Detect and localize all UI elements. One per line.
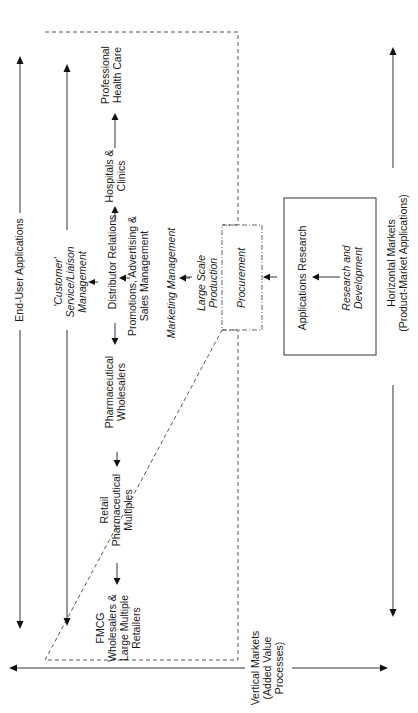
arrow-down-icon — [112, 338, 119, 345]
arrow-left-icon — [179, 275, 186, 282]
customer-service-axis: 'Customer' Service/Liaison Management — [52, 64, 98, 626]
vertical-markets-line-3: Processes) — [273, 642, 285, 695]
rnd-line-1: Research and — [340, 244, 352, 311]
retail-line-2: Pharmaceutical — [110, 474, 122, 546]
horizontal-markets-line-1: Horizontal Markets — [385, 219, 397, 307]
arrow-down-icon — [17, 621, 24, 629]
value-chain-diagram: End-User Applications 'Customer' Service… — [0, 0, 418, 713]
fmcg-line-3: Large Multiple — [118, 595, 130, 661]
customer-service-line-1: 'Customer' — [52, 256, 64, 307]
arrow-left-icon — [9, 665, 17, 672]
customer-service-line-3: Management — [76, 250, 88, 312]
rnd-line-2: Development — [352, 246, 364, 309]
arrow-down-icon — [114, 578, 121, 585]
arrow-down-icon — [114, 460, 121, 467]
procurement-label: Procurement — [235, 247, 247, 308]
retail-line-1: Retail — [98, 497, 110, 524]
horizontal-markets-line-2: (Product-Market Applications) — [397, 194, 409, 332]
arrow-up-icon — [17, 56, 24, 64]
arrow-left-icon — [88, 279, 95, 285]
fmcg-line-1: FMCG — [94, 613, 106, 644]
production-line-1: Large Scale — [195, 255, 207, 311]
vertical-markets-axis: Vertical Markets (Added Value Processes) — [9, 631, 388, 706]
organisation-boundary — [45, 32, 238, 660]
arrow-left-icon — [119, 275, 126, 282]
horizontal-markets-axis: Horizontal Markets (Product-Market Appli… — [385, 47, 409, 617]
vertical-markets-line-2: (Added Value — [261, 636, 273, 699]
applications-research-label: Applications Research — [296, 226, 308, 331]
end-user-applications-label: End-User Applications — [13, 218, 25, 321]
arrow-up-icon — [64, 64, 71, 72]
professional-health-care-line-2: Health Care — [111, 47, 123, 103]
production-line-2: Production — [207, 258, 219, 308]
pharma-wholesalers-line-2: Wholesalers — [115, 363, 127, 421]
marketing-block: Marketing Management — [165, 227, 190, 338]
professional-health-care-line-1: Professional — [99, 46, 111, 104]
arrow-up-icon — [112, 113, 119, 120]
arrow-left-icon — [263, 274, 270, 281]
retail-line-3: Multiples — [122, 489, 134, 530]
distributor-relations-label: Distributor Relations — [106, 215, 118, 310]
promotions-block: Promotions, Advertising & Sales Manageme… — [119, 216, 150, 336]
hospitals-line-1: Hospitals & — [103, 149, 115, 202]
distribution-channel: Professional Health Care Hospitals & Cli… — [94, 46, 142, 662]
promotions-line-1: Promotions, Advertising & — [126, 216, 138, 336]
fmcg-line-2: Wholesalers & — [106, 594, 118, 662]
arrow-up-icon — [390, 47, 397, 55]
arrow-left-icon — [312, 274, 319, 281]
arrow-down-icon — [64, 618, 71, 626]
hospitals-line-2: Clinics — [115, 161, 127, 192]
fmcg-line-4: Retailers — [130, 607, 142, 648]
vertical-markets-line-1: Vertical Markets — [249, 631, 261, 706]
arrow-up-icon — [112, 206, 119, 213]
arrow-down-icon — [390, 609, 397, 617]
arrow-right-icon — [380, 665, 388, 672]
end-user-axis: End-User Applications — [13, 56, 25, 629]
marketing-management-label: Marketing Management — [165, 227, 177, 338]
production-block: Large Scale Production — [186, 255, 219, 311]
pharma-wholesalers-line-1: Pharmaceutical — [103, 356, 115, 428]
customer-service-line-2: Service/Liaison — [64, 246, 76, 317]
promotions-line-2: Sales Management — [138, 231, 150, 322]
